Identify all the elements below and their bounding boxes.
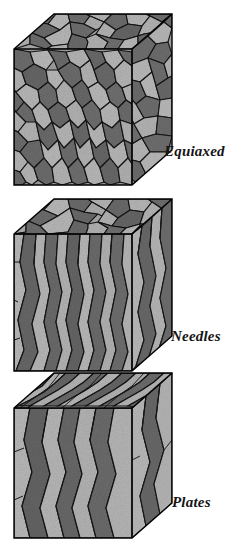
cube-needles [14,199,172,371]
grain-morphology-figure [0,0,244,551]
cube-equiaxed [14,14,172,185]
cube-label-needles: Needles [171,329,221,344]
cube-label-plates: Plates [172,495,211,510]
cube-equiaxed-front-face [14,49,132,185]
cube-plates [14,373,172,538]
cube-needles-front-face [14,234,132,371]
cube-plates-front-face [14,408,132,538]
cube-label-equiaxed: Equiaxed [164,144,225,159]
